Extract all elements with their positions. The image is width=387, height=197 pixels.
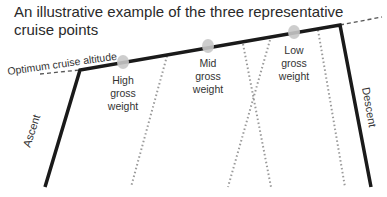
high-label-3: weight	[107, 100, 138, 112]
mid-label-2: gross	[195, 70, 221, 82]
dotted-line-2	[228, 40, 270, 187]
low-label-1: Low	[284, 44, 304, 56]
high-label-2: gross	[110, 87, 136, 99]
low-label-2: gross	[281, 57, 307, 69]
optimum-altitude-label: Optimum cruise altitude	[7, 50, 118, 77]
mid-label-1: Mid	[200, 57, 217, 69]
dotted-line-4	[318, 30, 345, 187]
descent-label: Descent	[360, 86, 379, 128]
dotted-line-1	[131, 56, 167, 187]
optimum-altitude-line-right	[340, 17, 382, 25]
low-label-3: weight	[278, 70, 309, 82]
high-label-1: High	[112, 74, 134, 86]
marker-high-gross-weight	[117, 55, 129, 69]
flight-profile-diagram: Optimum cruise altitude Ascent Descent H…	[0, 0, 387, 197]
ascent-label: Ascent	[20, 113, 42, 149]
dotted-line-3	[243, 44, 271, 187]
marker-low-gross-weight	[288, 25, 300, 39]
marker-mid-gross-weight	[202, 39, 214, 53]
mid-label-3: weight	[192, 83, 223, 95]
